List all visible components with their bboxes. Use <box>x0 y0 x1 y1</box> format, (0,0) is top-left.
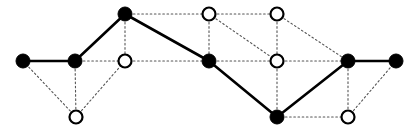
edge-u3-u5 <box>209 14 277 61</box>
graph-canvas <box>0 0 418 131</box>
node-open-u1[interactable] <box>70 111 83 124</box>
node-filled-v6[interactable] <box>341 54 355 68</box>
node-open-u3[interactable] <box>203 8 216 21</box>
node-layer <box>16 7 403 124</box>
node-filled-v5[interactable] <box>270 110 284 124</box>
node-filled-v4[interactable] <box>202 54 216 68</box>
edge-v2-v3 <box>75 14 125 61</box>
edge-u4-v6 <box>277 14 348 61</box>
edge-v5-v6 <box>277 61 348 117</box>
figure-root <box>0 0 418 131</box>
node-filled-v3[interactable] <box>118 7 132 21</box>
node-open-u4[interactable] <box>271 8 284 21</box>
node-filled-v7[interactable] <box>389 54 403 68</box>
node-open-u5[interactable] <box>271 55 284 68</box>
node-open-u2[interactable] <box>119 55 132 68</box>
edge-v3-v4 <box>125 14 209 61</box>
edge-v1-u1 <box>23 61 76 117</box>
edge-u1-u2 <box>76 61 125 117</box>
edge-v2-u1 <box>75 61 76 117</box>
edge-v4-v5 <box>209 61 277 117</box>
node-filled-v2[interactable] <box>68 54 82 68</box>
node-open-u6[interactable] <box>342 111 355 124</box>
node-filled-v1[interactable] <box>16 54 30 68</box>
edge-u6-v7 <box>348 61 396 117</box>
